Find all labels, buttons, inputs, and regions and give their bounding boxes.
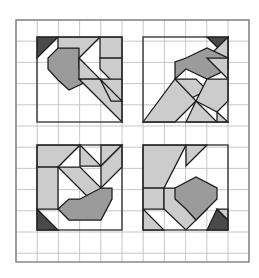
panel-bottom-left-light-left-column <box>37 167 58 209</box>
panel-bottom-right-light-left-lower-triangle <box>143 188 164 209</box>
panel-top-left-light-upper-right-triangle <box>100 37 122 58</box>
tangram-figure <box>0 0 259 278</box>
figure-canvas <box>0 0 259 278</box>
